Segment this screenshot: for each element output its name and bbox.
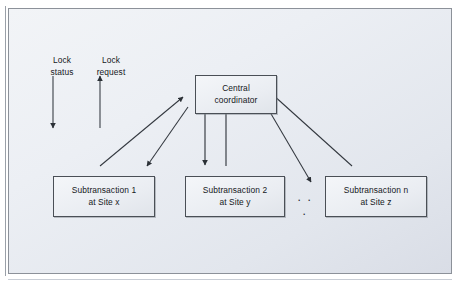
node-subtransaction-n-line1: Subtransaction n [344,185,408,195]
node-central-coordinator-line1: Central [222,83,250,93]
page-left-rule [5,6,6,276]
node-central-coordinator: Central coordinator [195,75,277,114]
node-subtransaction-1-line2: at Site x [72,197,136,209]
connector-layer [0,0,458,286]
node-subtransaction-2-line1: Subtransaction 2 [203,185,267,195]
lock-status-label-line2: status [51,67,74,77]
node-subtransaction-n: Subtransaction n at Site z [325,176,427,217]
edge-coordinator-to-sub1 [147,107,188,166]
node-subtransaction-2: Subtransaction 2 at Site y [185,176,285,217]
page-bottom-rule [8,279,452,280]
node-subtransaction-n-line2: at Site z [344,197,408,209]
ellipsis-separator: . . . [293,190,317,218]
edge-coordinator-to-sub3 [267,107,311,182]
node-subtransaction-1-line1: Subtransaction 1 [72,185,136,195]
lock-status-label-line1: Lock [53,55,71,65]
node-subtransaction-2-line2: at Site y [203,197,267,209]
node-central-coordinator-line2: coordinator [215,95,258,107]
edge-sub3-to-coordinator [272,94,352,166]
lock-request-label: Lock request [79,55,143,79]
figure-container: Lock status Lock request Central coordin… [0,0,458,286]
diagram-panel: Lock status Lock request Central coordin… [8,8,452,274]
lock-request-label-line2: request [97,67,126,77]
node-subtransaction-1: Subtransaction 1 at Site x [53,176,155,217]
edge-sub1-to-coordinator [100,97,183,166]
lock-request-label-line1: Lock [102,55,120,65]
